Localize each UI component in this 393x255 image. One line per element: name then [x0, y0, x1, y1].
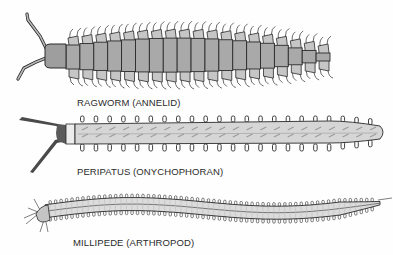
ragworm-antennae [18, 14, 46, 79]
ragworm-illustration [18, 14, 333, 89]
peripatus-label: PERIPATUS (ONYCHOPHORAN) [77, 166, 223, 177]
millipede-illustration [24, 194, 392, 232]
specimen-comparison-figure: RAGWORM (ANNELID) PERIPATUS (ONYCHOPHORA… [0, 0, 393, 255]
ragworm-head [45, 44, 66, 68]
peripatus-collar [66, 124, 75, 144]
ragworm-segments [66, 21, 333, 89]
millipede-label: MILLIPEDE (ARTHROPOD) [73, 237, 194, 248]
peripatus-body [75, 121, 383, 144]
peripatus-illustration [19, 116, 383, 173]
ragworm-label: RAGWORM (ANNELID) [77, 97, 181, 108]
peripatus-antenna-lower [30, 138, 62, 173]
illustration [0, 0, 393, 255]
peripatus-antenna-upper [19, 117, 62, 130]
millipede-head [36, 205, 50, 222]
